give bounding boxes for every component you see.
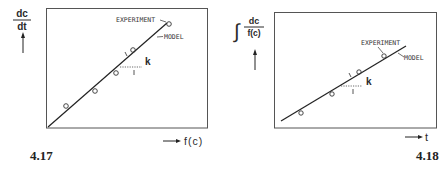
x-axis-arrow-icon xyxy=(163,139,181,143)
y-axis-arrow-icon xyxy=(253,49,257,70)
integral-sign: ∫ xyxy=(233,20,241,43)
slope-label: k xyxy=(145,56,151,67)
figure-caption: 4.18 xyxy=(416,148,439,163)
data-point xyxy=(114,71,119,76)
experiment-pointer xyxy=(160,20,166,22)
model-label: MODEL xyxy=(404,54,424,62)
x-label: t xyxy=(425,131,428,143)
model-label: MODEL xyxy=(164,33,184,41)
x-axis-arrow-icon xyxy=(405,135,423,139)
model-line xyxy=(48,23,167,127)
figure-4-18: ∫ dc f(c) k EXPERIMENT MODEL xyxy=(233,13,439,164)
y-label-denominator: dt xyxy=(17,21,27,32)
y-label-numerator: dc xyxy=(16,8,28,19)
data-point xyxy=(167,22,172,27)
figure-4-17: dc dt k EXPERIMENT MODEL xyxy=(13,8,208,163)
experiment-label: EXPERIMENT xyxy=(116,16,155,24)
y-label-denominator: f(c) xyxy=(247,28,260,38)
data-point xyxy=(64,104,69,109)
plot-frame xyxy=(47,9,208,129)
model-line xyxy=(281,46,406,121)
data-point xyxy=(382,54,386,58)
slope-tick-diagonal xyxy=(125,52,127,56)
model-pointer xyxy=(157,37,163,38)
experiment-label: EXPERIMENT xyxy=(361,39,400,47)
data-point xyxy=(93,89,98,94)
data-point xyxy=(131,48,136,53)
experiment-points xyxy=(64,22,172,109)
y-label-numerator: dc xyxy=(249,16,260,26)
slope-tick-diagonal xyxy=(349,73,351,77)
data-point xyxy=(299,111,303,115)
figure-caption: 4.17 xyxy=(30,148,53,163)
data-point xyxy=(330,92,334,96)
x-label: f(c) xyxy=(184,135,203,147)
y-axis-arrow-icon xyxy=(21,32,25,53)
experiment-pointer xyxy=(378,47,383,53)
slope-label: k xyxy=(366,76,372,87)
